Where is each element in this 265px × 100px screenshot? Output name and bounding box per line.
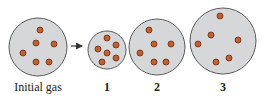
gas-particle-icon (99, 59, 105, 65)
gas-particle-icon (213, 59, 219, 65)
container-circle (129, 19, 185, 75)
label-container-3: 3 (220, 80, 226, 94)
gas-particle-icon (51, 41, 57, 47)
gas-particle-icon (104, 50, 110, 56)
gas-container-3 (190, 8, 256, 74)
gas-particle-icon (151, 59, 157, 65)
label-container-2: 2 (154, 80, 160, 94)
gas-container-2 (129, 19, 185, 75)
label-container-1: 1 (104, 80, 110, 94)
gas-particle-icon (235, 37, 241, 43)
gas-particle-icon (113, 42, 119, 48)
gas-particle-icon (195, 41, 201, 47)
gas-particle-icon (37, 27, 43, 33)
gas-particle-icon (95, 46, 101, 52)
gas-particle-icon (46, 59, 52, 65)
gas-particle-icon (20, 50, 26, 56)
gas-particle-icon (137, 50, 143, 56)
gas-particle-icon (217, 13, 223, 19)
containers-layer (9, 8, 256, 76)
gas-particle-icon (226, 55, 232, 61)
label-initial-gas: Initial gas (14, 80, 62, 94)
gas-particle-icon (146, 27, 152, 33)
gas-particle-icon (168, 41, 174, 47)
gas-container-initial (9, 18, 67, 76)
gas-particle-icon (33, 59, 39, 65)
gas-particle-icon (151, 41, 157, 47)
gas-particle-icon (104, 35, 110, 41)
gas-particle-icon (113, 55, 119, 61)
gas-particle-icon (208, 32, 214, 38)
container-circle (9, 18, 67, 76)
container-circle (190, 8, 256, 74)
gas-particle-icon (33, 40, 39, 46)
gas-particle-icon (163, 59, 169, 65)
gas-container-1 (88, 31, 126, 69)
